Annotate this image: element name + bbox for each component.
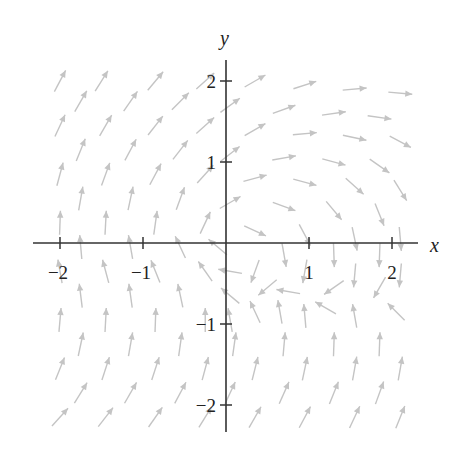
field-arrow xyxy=(258,280,276,295)
field-arrow xyxy=(173,140,188,159)
field-arrow xyxy=(331,243,337,267)
field-arrow xyxy=(221,147,240,162)
field-arrow xyxy=(377,332,383,356)
field-arrow xyxy=(151,260,160,282)
field-arrow xyxy=(249,407,261,428)
field-arrow xyxy=(54,70,65,91)
field-arrow xyxy=(77,235,83,259)
field-arrow xyxy=(100,115,112,136)
field-arrow xyxy=(232,332,238,356)
field-arrow xyxy=(202,357,209,380)
field-arrow xyxy=(293,80,316,88)
field-arrow xyxy=(200,212,210,234)
field-arrow xyxy=(128,332,134,356)
field-arrow xyxy=(293,130,317,136)
field-arrow xyxy=(346,178,364,194)
field-arrow xyxy=(172,93,189,110)
field-arrow xyxy=(376,243,382,267)
y-axis-label: y xyxy=(218,27,229,50)
field-arrow xyxy=(221,288,239,303)
field-arrow xyxy=(127,284,133,308)
field-arrow xyxy=(78,187,84,211)
field-arrow xyxy=(245,124,266,136)
y-tick-label: 2 xyxy=(207,71,217,92)
field-arrow xyxy=(153,211,159,235)
field-arrow xyxy=(250,260,259,283)
field-arrow xyxy=(57,163,64,186)
field-arrow xyxy=(150,164,161,185)
field-arrow xyxy=(375,382,384,405)
field-arrow xyxy=(398,227,404,251)
field-arrow xyxy=(103,211,109,235)
field-arrow xyxy=(148,116,163,135)
field-arrow xyxy=(252,357,259,380)
field-arrow xyxy=(394,180,407,200)
field-arrow xyxy=(324,281,344,295)
field-arrow xyxy=(196,118,214,134)
field-arrow xyxy=(273,202,296,211)
field-arrow xyxy=(276,288,300,294)
field-arrow xyxy=(56,357,65,379)
field-arrow xyxy=(198,262,212,282)
field-arrow xyxy=(281,332,287,356)
direction-arrows xyxy=(52,70,412,428)
field-arrow xyxy=(98,408,113,427)
field-arrow xyxy=(276,300,282,324)
field-arrow xyxy=(250,301,260,323)
field-arrow xyxy=(218,267,242,273)
field-arrow xyxy=(279,382,289,404)
field-arrow xyxy=(351,304,357,328)
field-arrow xyxy=(175,382,186,403)
field-arrow xyxy=(209,239,227,254)
field-arrow xyxy=(272,154,296,160)
field-arrow xyxy=(77,284,83,308)
field-arrow xyxy=(315,302,336,314)
field-arrow xyxy=(368,115,392,121)
field-arrow xyxy=(75,91,87,112)
field-arrow xyxy=(396,406,405,428)
field-arrow xyxy=(322,110,346,116)
field-arrow xyxy=(388,303,405,320)
field-arrow xyxy=(388,90,412,96)
field-arrow xyxy=(55,115,65,137)
field-arrow xyxy=(326,201,341,219)
field-arrow xyxy=(374,277,386,298)
field-arrow xyxy=(220,197,241,209)
field-arrow xyxy=(148,72,163,90)
field-arrow xyxy=(220,98,239,112)
field-arrow xyxy=(128,187,135,210)
field-arrow xyxy=(101,260,108,283)
field-arrow xyxy=(226,308,232,332)
field-arrow xyxy=(103,308,109,332)
field-arrow xyxy=(57,308,63,332)
x-axis-label: x xyxy=(429,234,439,256)
field-arrow xyxy=(352,227,359,250)
field-arrow xyxy=(95,71,108,91)
x-tick-label: −2 xyxy=(48,262,68,283)
field-arrow xyxy=(78,333,85,356)
field-arrow xyxy=(102,163,111,186)
field-arrow xyxy=(331,332,337,356)
field-arrow xyxy=(398,357,404,381)
field-arrow xyxy=(302,357,309,380)
field-arrow xyxy=(343,135,366,142)
field-arrow xyxy=(351,263,357,287)
field-arrow xyxy=(273,105,296,114)
field-arrow xyxy=(57,211,63,235)
field-arrow xyxy=(243,174,266,181)
x-tick-label: −1 xyxy=(131,262,151,283)
field-arrow xyxy=(293,179,316,186)
field-arrow xyxy=(175,236,185,258)
y-tick-label: 1 xyxy=(207,152,217,173)
field-arrow xyxy=(299,407,310,428)
y-tick-label: −1 xyxy=(196,314,216,335)
field-arrow xyxy=(102,357,110,380)
field-arrow xyxy=(52,408,68,426)
field-arrow xyxy=(176,187,185,210)
x-tick-label: 1 xyxy=(304,262,314,283)
field-arrow xyxy=(245,75,266,87)
field-arrow xyxy=(343,85,367,91)
field-arrow xyxy=(125,139,136,160)
field-arrow xyxy=(152,308,158,332)
field-arrow xyxy=(178,332,184,356)
